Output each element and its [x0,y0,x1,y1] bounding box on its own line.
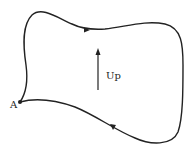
point-a-label: A [9,99,18,110]
up-label: Up [106,70,121,81]
diagram-canvas: A Up [0,0,194,156]
closed-curve [20,12,183,143]
arrow-head-bottom [110,124,116,130]
point-a-dot [18,100,22,104]
up-arrow-head [96,48,101,55]
